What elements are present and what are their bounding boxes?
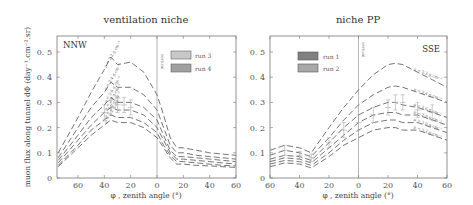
right-legend: run 1 run 2 xyxy=(298,52,340,72)
legend-label-run1: run 1 xyxy=(323,53,339,60)
left-direction-tag: NNW xyxy=(63,40,87,50)
x-tick-label: 60 xyxy=(73,181,83,190)
left-legend: run 3 run 4 xyxy=(171,51,212,72)
x-tick-label: 40 xyxy=(412,181,422,190)
y-tick-label: 0. 2 xyxy=(37,124,52,133)
y-tick-label: 0. 1 xyxy=(250,149,265,158)
legend-swatch-run4 xyxy=(171,64,191,72)
right-vertical-label: vertical xyxy=(361,41,366,58)
density-curve xyxy=(58,115,236,166)
density-curve xyxy=(58,107,236,164)
y-tick-label: 0. 3 xyxy=(37,98,52,107)
x-tick-label: 40 xyxy=(99,181,109,190)
y-tick-label: 0. 5 xyxy=(37,48,52,57)
y-tick-label: 0. 1 xyxy=(37,149,52,158)
y-tick-label: 0 xyxy=(47,174,52,183)
y-tick-label: 0. 3 xyxy=(250,98,265,107)
left-vertical-label: vertical xyxy=(160,53,165,70)
left-panel: ventilation niche ρ = 2.2 g.cm⁻³ρ = 2.4 … xyxy=(23,14,241,200)
density-curve xyxy=(58,120,236,167)
y-tick-label: 0. 2 xyxy=(250,124,265,133)
x-tick-label: 40 xyxy=(205,181,215,190)
legend-label-run2: run 2 xyxy=(323,65,340,72)
y-tick-label: 0. 5 xyxy=(250,48,265,57)
x-tick-label: 20 xyxy=(178,181,188,190)
right-x-axis-label: φ , zenith angle (°) xyxy=(322,191,393,200)
density-label: ρ = 2.4 g.cm⁻³ xyxy=(413,87,443,102)
x-tick-label: 60 xyxy=(442,181,452,190)
y-tick-label: 0. 4 xyxy=(250,73,265,82)
legend-swatch-run2 xyxy=(298,64,318,72)
x-tick-label: 60 xyxy=(265,181,275,190)
x-tick-label: 60 xyxy=(231,181,241,190)
right-panel-title: niche PP xyxy=(336,14,381,25)
density-curve xyxy=(58,57,236,155)
right-plot-area: ρ = 2.2 g.cm⁻³ρ = 2.4 g.cm⁻³ρ = 2.6 g.cm… xyxy=(270,36,447,178)
density-curve xyxy=(58,82,236,159)
left-panel-title: ventilation niche xyxy=(103,14,189,25)
x-tick-label: 20 xyxy=(383,181,393,190)
legend-swatch-run3 xyxy=(171,51,191,59)
y-tick-label: 0. 4 xyxy=(37,73,52,82)
right-panel: niche PP ρ = 2.2 g.cm⁻³ρ = 2.4 g.cm⁻³ρ =… xyxy=(250,14,452,200)
y-axis-label: muon flux along tunnel dΦ (day⁻¹.cm⁻².sr… xyxy=(23,27,32,187)
density-label: ρ = 2.2 g.cm⁻³ xyxy=(413,66,443,81)
chart-canvas: ventilation niche ρ = 2.2 g.cm⁻³ρ = 2.4 … xyxy=(0,0,473,205)
legend-swatch-run1 xyxy=(298,52,318,60)
legend-label-run3: run 3 xyxy=(195,52,212,59)
x-tick-label: 40 xyxy=(294,181,304,190)
left-x-axis-label: φ , zenith angle (°) xyxy=(110,191,181,200)
legend-label-run4: run 4 xyxy=(195,65,212,72)
x-tick-label: 20 xyxy=(126,181,136,190)
density-curve xyxy=(58,97,236,161)
right-direction-tag: SSE xyxy=(422,44,440,54)
x-tick-label: 0 xyxy=(154,181,159,190)
x-tick-label: 0 xyxy=(356,181,361,190)
x-tick-label: 20 xyxy=(324,181,334,190)
